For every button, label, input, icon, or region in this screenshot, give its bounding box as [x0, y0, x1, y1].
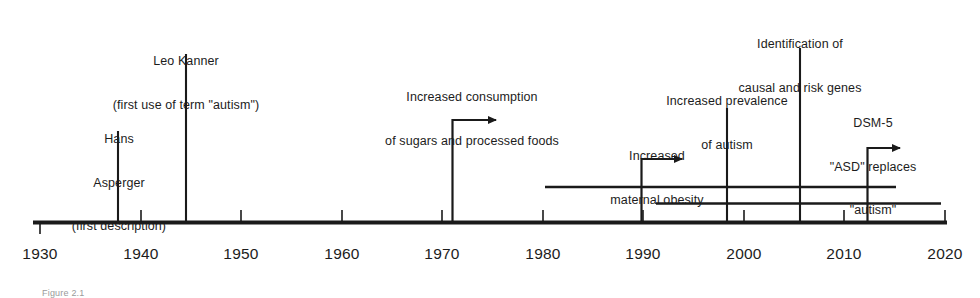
event-label-line: (first use of term "autism") [76, 98, 296, 113]
event-label-line: Increased consumption [358, 90, 586, 105]
event-label-dsm-5: DSM-5 "ASD" replaces "autism" [812, 87, 934, 247]
axis-label-1980: 1980 [508, 245, 578, 263]
axis-label-1950: 1950 [206, 245, 276, 263]
axis-label-1990: 1990 [608, 245, 678, 263]
event-label-line: of autism [629, 138, 825, 153]
axis-label-1970: 1970 [407, 245, 477, 263]
axis-label-1930: 1930 [5, 245, 75, 263]
axis-label-2010: 2010 [809, 245, 879, 263]
event-label-line: DSM-5 [812, 116, 934, 131]
event-label-leo-kanner: Leo Kanner (first use of term "autism") [76, 25, 296, 141]
event-label-line: Leo Kanner [76, 54, 296, 69]
axis-label-2000: 2000 [709, 245, 779, 263]
event-label-line: of sugars and processed foods [358, 134, 586, 149]
event-label-line: "ASD" replaces [812, 160, 934, 175]
event-label-line: (first description) [44, 219, 194, 234]
figure-caption: Figure 2.1 [42, 288, 85, 298]
event-label-increased-sugars: Increased consumption of sugars and proc… [358, 61, 586, 177]
axis-label-1940: 1940 [106, 245, 176, 263]
event-label-line: Asperger [44, 176, 194, 191]
axis-label-2020: 2020 [910, 245, 980, 263]
event-label-line: "autism" [812, 203, 934, 218]
axis-label-1960: 1960 [307, 245, 377, 263]
event-label-line: Identification of [706, 37, 894, 52]
event-label-line: maternal obesity [582, 193, 732, 208]
